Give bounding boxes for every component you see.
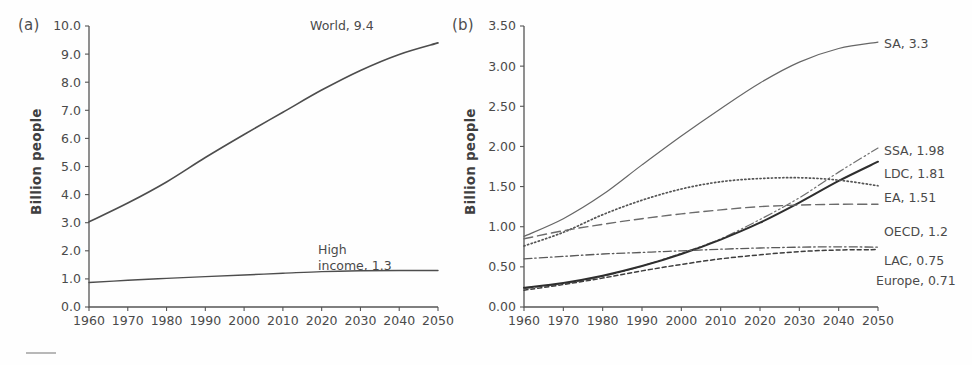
series-label-ea: EA, 1.51 [884,190,936,205]
series-label-sa: SA, 3.3 [884,36,929,51]
x-tick-label: 2040 [383,313,415,328]
series-label-ldc: LDC, 1.81 [884,166,945,181]
panel-b: (b) Billion people 0.000.501.001.502.002… [440,0,972,365]
y-tick-label: 9.0 [61,47,81,62]
series-line-world [89,43,438,222]
series-line-ssa [524,148,878,289]
x-tick-label: 2000 [665,313,697,328]
series-line-sa [524,42,878,236]
y-tick-label: 3.50 [488,18,516,33]
y-tick-label: 7.0 [61,103,81,118]
y-tick-label: 4.0 [61,187,81,202]
panel-b-plot: 0.000.501.001.502.002.503.003.5019601970… [440,0,972,365]
x-tick-label: 2020 [744,313,776,328]
x-tick-label: 2030 [783,313,815,328]
series-line-oecd [524,204,878,239]
y-tick-label: 2.0 [61,243,81,258]
series-label-world: World, 9.4 [310,18,374,33]
y-tick-label: 8.0 [61,75,81,90]
x-tick-label: 1990 [189,313,221,328]
x-tick-label: 1960 [508,313,540,328]
x-tick-label: 2010 [705,313,737,328]
caption-rule [26,352,56,354]
series-label-lac: LAC, 0.75 [884,253,944,268]
x-tick-label: 1970 [112,313,144,328]
x-tick-label: 2020 [306,313,338,328]
y-tick-label: 3.00 [488,59,516,74]
y-tick-label: 10.0 [53,18,81,33]
x-tick-label: 2010 [267,313,299,328]
y-tick-label: 2.50 [488,99,516,114]
x-tick-label: 1980 [587,313,619,328]
panel-a-plot: 0.01.02.03.04.05.06.07.08.09.010.0196019… [0,0,486,365]
x-tick-label: 1990 [626,313,658,328]
x-tick-label: 2030 [345,313,377,328]
series-line-lac [524,247,878,259]
x-tick-label: 1980 [151,313,183,328]
x-tick-label: 1970 [547,313,579,328]
x-tick-label: 1960 [73,313,105,328]
series-label-high-income: Highincome, 1.3 [318,242,392,273]
x-tick-label: 2050 [862,313,894,328]
y-tick-label: 6.0 [61,131,81,146]
series-label-ssa: SSA, 1.98 [884,143,944,158]
y-tick-label: 5.0 [61,159,81,174]
y-tick-label: 0.50 [488,259,516,274]
figure-population-projections: (a) Billion people 0.01.02.03.04.05.06.0… [0,0,972,365]
x-tick-label: 2040 [823,313,855,328]
x-tick-label: 2000 [228,313,260,328]
y-tick-label: 3.0 [61,215,81,230]
panel-a: (a) Billion people 0.01.02.03.04.05.06.0… [0,0,486,365]
series-label-oecd: OECD, 1.2 [884,224,948,239]
y-tick-label: 2.00 [488,139,516,154]
series-label-europe: Europe, 0.71 [876,273,956,288]
y-tick-label: 1.00 [488,219,516,234]
y-tick-label: 1.50 [488,179,516,194]
y-tick-label: 1.0 [61,271,81,286]
